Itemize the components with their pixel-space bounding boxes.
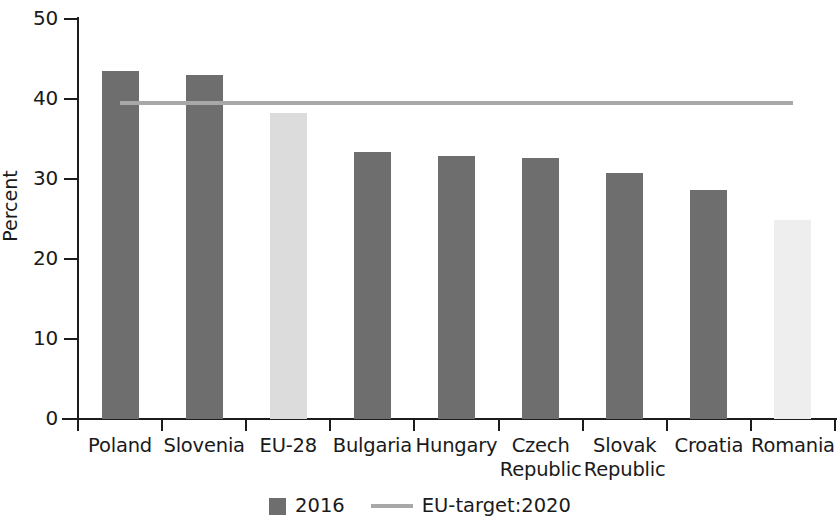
x-axis-label-czech-republic: CzechRepublic [499,434,583,482]
x-axis-label-eu-28: EU-28 [246,434,330,458]
y-axis-tick-label-wrap: 20 [0,248,58,268]
plot-area [78,19,835,419]
y-axis-tick-label-wrap: 40 [0,88,58,108]
y-axis-tick-mark [64,98,78,100]
x-axis-label-poland: Poland [78,434,162,458]
bar-czech-republic[interactable] [522,158,559,419]
legend-swatch-square-icon [269,498,286,515]
chart-legend: 2016EU-target:2020 [0,496,840,516]
x-axis-label-slovenia: Slovenia [162,434,246,458]
legend-swatch-line-icon [371,504,413,508]
x-axis-label-line: Czech [499,434,583,458]
x-axis-label-line: Croatia [667,434,751,458]
legend-label: EU-target:2020 [422,496,571,516]
bar-hungary[interactable] [438,156,475,419]
bar-bulgaria[interactable] [354,152,391,419]
x-axis-label-romania: Romania [751,434,835,458]
bar-chart: Percent 01020304050 PolandSloveniaEU-28B… [0,0,840,526]
x-axis-tick-mark [582,420,584,431]
y-axis-tick-label: 50 [14,8,58,28]
x-axis-tick-mark [161,420,163,431]
y-axis-tick-label-wrap: 50 [0,8,58,28]
y-axis-tick-label-wrap: 10 [0,328,58,348]
x-axis-label-line: Republic [583,458,667,482]
y-axis-tick-mark [64,258,78,260]
x-axis-tick-mark [245,420,247,431]
y-axis-tick-label: 30 [14,168,58,188]
bar-romania[interactable] [774,220,811,419]
y-axis-tick-label-wrap: 30 [0,168,58,188]
x-axis-tick-mark [750,420,752,431]
x-axis-tick-mark [413,420,415,431]
legend-label: 2016 [295,496,345,516]
y-axis-tick-label: 40 [14,88,58,108]
y-axis-tick-mark [64,18,78,20]
x-axis-label-line: Republic [499,458,583,482]
x-axis-label-line: Poland [78,434,162,458]
x-axis-label-croatia: Croatia [667,434,751,458]
x-axis-label-bulgaria: Bulgaria [330,434,414,458]
bar-slovenia[interactable] [186,75,223,419]
y-axis-tick-label-wrap: 0 [0,408,58,428]
x-axis-label-line: Hungary [414,434,498,458]
bar-eu-28[interactable] [270,113,307,419]
x-axis-label-line: Slovenia [162,434,246,458]
y-axis-tick-mark [64,418,78,420]
x-axis-label-slovak-republic: SlovakRepublic [583,434,667,482]
x-axis-tick-mark [77,420,79,431]
x-axis-label-line: Romania [751,434,835,458]
y-axis-tick-mark [64,338,78,340]
y-axis-tick-label: 0 [14,408,58,428]
x-axis-label-line: Bulgaria [330,434,414,458]
eu-target-line [120,101,793,105]
y-axis-tick-mark [64,178,78,180]
x-axis-label-line: EU-28 [246,434,330,458]
x-axis-tick-mark [834,420,836,431]
bar-croatia[interactable] [690,190,727,419]
x-axis-tick-mark [666,420,668,431]
bar-poland[interactable] [102,71,139,419]
x-axis-tick-mark [498,420,500,431]
y-axis-tick-label: 20 [14,248,58,268]
x-axis-tick-mark [329,420,331,431]
legend-item-2016[interactable]: 2016 [269,496,345,516]
x-axis-label-hungary: Hungary [414,434,498,458]
legend-item-eu-target-2020[interactable]: EU-target:2020 [371,496,571,516]
bar-slovak-republic[interactable] [606,173,643,419]
y-axis-tick-label: 10 [14,328,58,348]
x-axis-label-line: Slovak [583,434,667,458]
